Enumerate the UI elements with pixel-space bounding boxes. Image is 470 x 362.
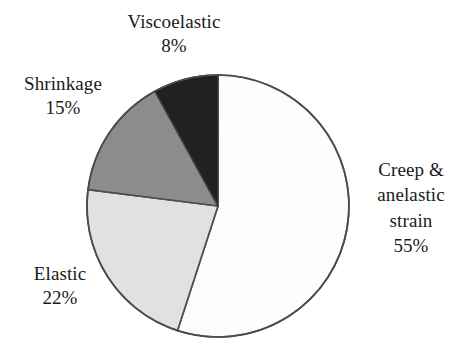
label-creep-line3: strain <box>356 208 466 233</box>
label-shrinkage-name: Shrinkage <box>0 72 128 96</box>
label-shrinkage: Shrinkage 15% <box>0 72 128 121</box>
label-creep-anelastic-strain: Creep & anelastic strain 55% <box>356 157 466 258</box>
label-creep-line2: anelastic <box>356 182 466 207</box>
label-elastic-name: Elastic <box>0 262 125 286</box>
label-creep-percent: 55% <box>356 233 466 258</box>
label-elastic: Elastic 22% <box>0 262 125 311</box>
label-viscoelastic-name: Viscoelastic <box>104 10 244 34</box>
label-viscoelastic-percent: 8% <box>104 34 244 58</box>
label-creep-line1: Creep & <box>356 157 466 182</box>
label-elastic-percent: 22% <box>0 286 125 310</box>
pie-chart: Viscoelastic 8% Shrinkage 15% Elastic 22… <box>0 0 470 362</box>
label-viscoelastic: Viscoelastic 8% <box>104 10 244 59</box>
label-shrinkage-percent: 15% <box>0 96 128 120</box>
